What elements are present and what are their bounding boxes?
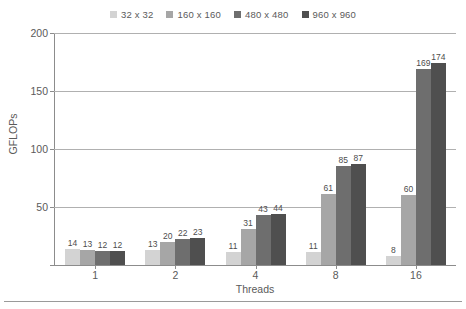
bar[interactable] (80, 250, 95, 265)
bar-value-label: 31 (243, 219, 252, 228)
bar[interactable] (175, 239, 190, 265)
bar-item[interactable]: 61 (321, 33, 336, 265)
bar-value-label: 43 (258, 205, 267, 214)
bar[interactable] (160, 242, 175, 265)
bar[interactable] (416, 69, 431, 265)
bar[interactable] (336, 166, 351, 265)
legend-item-3[interactable]: 960 x 960 (302, 9, 357, 20)
bar-item[interactable]: 60 (401, 33, 416, 265)
bar-value-label: 8 (391, 246, 396, 255)
legend-swatch-icon (110, 11, 117, 18)
legend-item-2[interactable]: 480 x 480 (234, 9, 289, 20)
bar[interactable] (401, 195, 416, 265)
y-tick-mark (50, 33, 54, 34)
legend-swatch-icon (302, 11, 309, 18)
bottom-divider (4, 301, 462, 302)
legend-swatch-icon (166, 11, 173, 18)
bar-item[interactable]: 8 (386, 33, 401, 265)
bar[interactable] (321, 194, 336, 265)
bar-item[interactable]: 13 (145, 33, 160, 265)
bar-value-label: 61 (323, 184, 332, 193)
bar-item[interactable]: 174 (431, 33, 446, 265)
y-axis-title: GFLOPs (7, 104, 19, 164)
bar-value-label: 85 (338, 156, 347, 165)
bar[interactable] (95, 251, 110, 265)
bar-group-16: 86016917416 (376, 33, 456, 265)
legend-item-label: 32 x 32 (121, 9, 154, 20)
x-tick-label: 2 (135, 269, 215, 281)
bar-item[interactable]: 13 (80, 33, 95, 265)
bar-item[interactable]: 169 (416, 33, 431, 265)
bar[interactable] (190, 238, 205, 265)
bar-item[interactable]: 31 (241, 33, 256, 265)
bar-item[interactable]: 11 (226, 33, 241, 265)
bar[interactable] (241, 229, 256, 265)
bar-item[interactable]: 23 (190, 33, 205, 265)
bar-value-label: 87 (353, 154, 362, 163)
legend-item-0[interactable]: 32 x 32 (110, 9, 154, 20)
bar[interactable] (145, 250, 160, 265)
bar-item[interactable]: 12 (95, 33, 110, 265)
bar[interactable] (110, 251, 125, 265)
bar-value-label: 23 (193, 228, 202, 237)
bar-item[interactable]: 87 (351, 33, 366, 265)
bar-value-label: 20 (163, 232, 172, 241)
bar-item[interactable]: 20 (160, 33, 175, 265)
y-tick-mark (50, 149, 54, 150)
x-axis-title: Threads (54, 283, 456, 295)
bar[interactable] (226, 252, 241, 265)
y-tick-mark (50, 207, 54, 208)
legend-swatch-icon (234, 11, 241, 18)
legend-item-label: 160 x 160 (177, 9, 221, 20)
bar-item[interactable]: 44 (271, 33, 286, 265)
bar-group-1: 141312121 (55, 33, 135, 265)
bar-value-label: 60 (404, 185, 413, 194)
bar-item[interactable]: 43 (256, 33, 271, 265)
bar-item[interactable]: 14 (65, 33, 80, 265)
bar-item[interactable]: 22 (175, 33, 190, 265)
bar-value-label: 13 (83, 240, 92, 249)
bar-value-label: 12 (98, 241, 107, 250)
bar[interactable] (256, 215, 271, 265)
bar[interactable] (306, 252, 321, 265)
bar[interactable] (351, 164, 366, 265)
bar-item[interactable]: 11 (306, 33, 321, 265)
bar-value-label: 11 (309, 242, 318, 251)
legend-item-label: 480 x 480 (245, 9, 289, 20)
bar-value-label: 12 (113, 241, 122, 250)
x-tick-label: 4 (215, 269, 295, 281)
bar-groups: 1413121211320222321131434441161858788601… (55, 33, 456, 265)
bar-group-2: 132022232 (135, 33, 215, 265)
grouped-bar-chart: 32 x 32160 x 160480 x 480960 x 960 GFLOP… (0, 0, 466, 309)
bar[interactable] (65, 249, 80, 265)
bar-group-8: 116185878 (296, 33, 376, 265)
bar-value-label: 169 (416, 59, 430, 68)
plot-area: 50100150200 1413121211320222321131434441… (54, 33, 456, 265)
bar-item[interactable]: 85 (336, 33, 351, 265)
bar-value-label: 14 (68, 239, 77, 248)
y-tick-label: 150 (30, 85, 48, 97)
bar-value-label: 11 (229, 242, 238, 251)
chart-legend: 32 x 32160 x 160480 x 480960 x 960 (0, 9, 466, 20)
bar[interactable] (271, 214, 286, 265)
bar-value-label: 44 (273, 204, 282, 213)
y-tick-label: 50 (36, 201, 48, 213)
bar-item[interactable]: 12 (110, 33, 125, 265)
legend-item-1[interactable]: 160 x 160 (166, 9, 221, 20)
y-tick-label: 100 (30, 143, 48, 155)
y-tick-mark (50, 265, 54, 266)
legend-item-label: 960 x 960 (313, 9, 357, 20)
x-tick-label: 8 (296, 269, 376, 281)
y-tick-mark (50, 91, 54, 92)
x-tick-label: 16 (376, 269, 456, 281)
x-tick-label: 1 (55, 269, 135, 281)
bar[interactable] (386, 256, 401, 265)
bar-value-label: 22 (178, 229, 187, 238)
bar-value-label: 174 (431, 53, 445, 62)
bar-group-4: 113143444 (215, 33, 295, 265)
bar[interactable] (431, 63, 446, 265)
bar-value-label: 13 (148, 240, 157, 249)
y-tick-label: 200 (30, 27, 48, 39)
